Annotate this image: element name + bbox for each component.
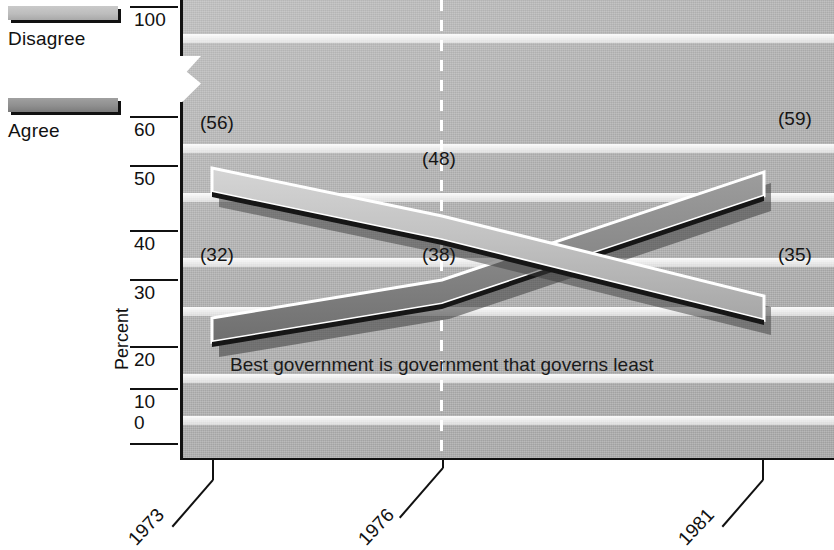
label-disagree-1981: (35) (778, 244, 812, 266)
legend-item-disagree: Disagree (8, 6, 118, 50)
label-agree-1976: (38) (422, 244, 456, 266)
y-tick-label: 30 (130, 281, 178, 304)
plot-area: (56) (48) (35) (32) (38) (59) Best gover… (180, 0, 834, 460)
y-tick-label: 50 (130, 167, 178, 190)
y-tick-label: 40 (130, 232, 178, 255)
label-agree-1981: (59) (778, 108, 812, 130)
x-tick-label: 1973 (124, 504, 169, 550)
legend-swatch-agree-icon (8, 98, 118, 112)
y-tick-60: 60 (130, 116, 178, 141)
x-tick-label: 1976 (354, 504, 399, 550)
axis-bottom-spine (180, 458, 834, 461)
x-tick-stem (212, 460, 214, 480)
y-tick-label: 60 (130, 118, 178, 141)
x-tick-diagonal (722, 479, 764, 527)
y-tick-40: 40 (130, 230, 178, 255)
y-tick-line (130, 443, 178, 445)
y-tick-10: 10 (130, 388, 178, 413)
y-tick-label: 0 (130, 411, 178, 434)
y-tick-30: 30 (130, 279, 178, 304)
label-disagree-1973: (56) (200, 112, 234, 134)
y-tick-20: 20 (130, 346, 178, 371)
y-tick-0: 0 (130, 411, 178, 434)
label-agree-1973: (32) (200, 244, 234, 266)
x-tick-diagonal (172, 479, 214, 527)
x-tick-stem (762, 460, 764, 480)
legend-label-agree: Agree (8, 120, 118, 142)
y-tick-50: 50 (130, 165, 178, 190)
y-tick-label: 10 (130, 390, 178, 413)
y-tick-label: 20 (130, 348, 178, 371)
y-tick-label: 100 (130, 8, 178, 31)
y-tick-100: 100 (130, 6, 178, 31)
label-disagree-1976: (48) (422, 148, 456, 170)
legend-item-agree: Agree (8, 98, 118, 142)
plot-caption: Best government is government that gover… (230, 354, 654, 376)
legend-swatch-disagree-icon (8, 6, 118, 20)
legend-label-disagree: Disagree (8, 28, 118, 50)
y-axis-title: Percent (112, 308, 133, 370)
series-ribbons (180, 0, 834, 460)
x-tick-diagonal (399, 467, 444, 518)
x-tick-label: 1981 (674, 504, 719, 550)
y-tick-baseline (130, 443, 178, 445)
